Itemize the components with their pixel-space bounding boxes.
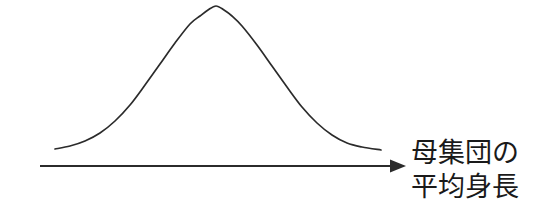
axis-label-line-2: 平均身長 [411, 170, 541, 204]
normal-distribution-curve [55, 6, 381, 150]
axis-label: 母集団の 平均身長 [411, 136, 541, 204]
axis-label-line-1: 母集団の [411, 136, 541, 170]
arrow-right-icon [390, 160, 406, 173]
normal-distribution-figure: 母集団の 平均身長 [0, 0, 543, 217]
